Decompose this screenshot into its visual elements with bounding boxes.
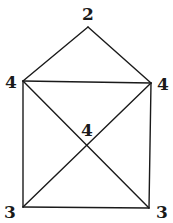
edge-diagonal-upper-right-lower-left — [23, 83, 151, 207]
label-top: 2 — [82, 4, 94, 24]
label-upper-left: 4 — [5, 72, 17, 92]
label-lower-left: 3 — [4, 202, 16, 222]
edge-top-upper-right — [88, 27, 151, 83]
edge-upper-right-lower-right — [149, 83, 151, 208]
edge-lower-left-lower-right — [23, 207, 149, 208]
edges — [23, 27, 151, 208]
graph-diagram: 2 4 4 4 3 3 — [0, 0, 173, 223]
label-lower-right: 3 — [156, 202, 168, 222]
label-center: 4 — [81, 120, 93, 140]
label-upper-right: 4 — [157, 74, 169, 94]
edge-upper-left-upper-right — [23, 81, 151, 83]
edge-top-upper-left — [23, 27, 88, 81]
vertex-labels: 2 4 4 4 3 3 — [4, 4, 169, 222]
